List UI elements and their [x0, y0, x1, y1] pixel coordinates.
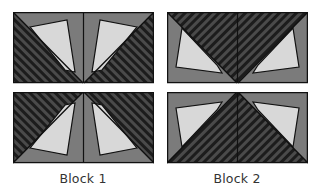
block1-bottom-right-unit [84, 92, 154, 163]
block1-bottom-row [13, 92, 154, 164]
block1-label: Block 1 [13, 171, 153, 186]
block2-label: Block 2 [167, 171, 307, 186]
block1-bottom-left-unit [13, 92, 83, 163]
block1-top-row [13, 12, 154, 84]
block1-top-right-unit [84, 12, 154, 83]
block1-top-left-unit [13, 12, 83, 83]
block2-top-row [167, 12, 308, 84]
block2-bottom-left-unit [167, 92, 237, 163]
block2-top-right-unit [238, 12, 308, 83]
block2-bottom-right-unit [238, 92, 308, 163]
block2-top-left-unit [167, 12, 237, 83]
block2-bottom-row [167, 92, 308, 164]
